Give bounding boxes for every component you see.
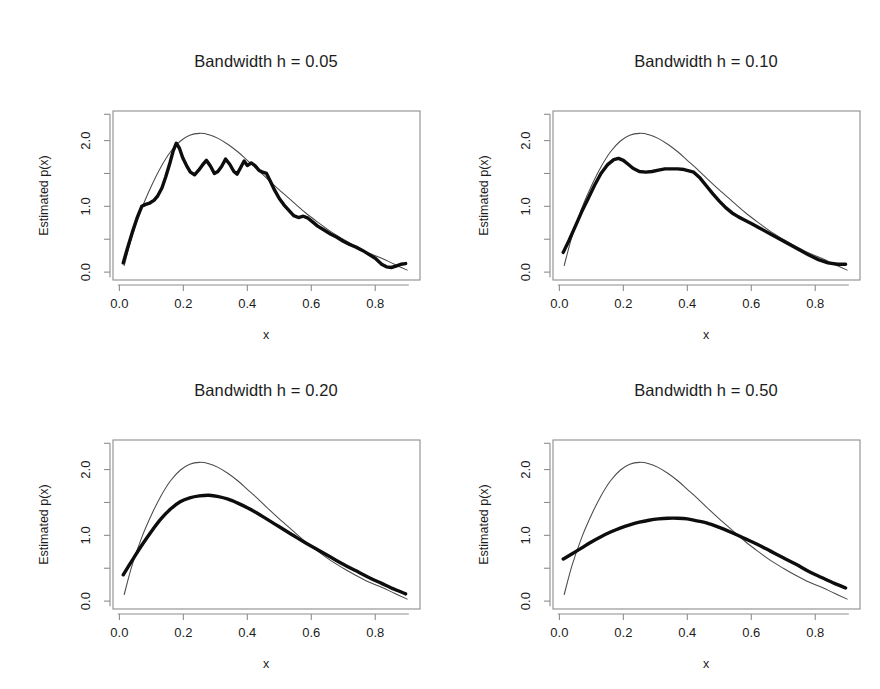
x-tick-label: 0.0	[110, 296, 128, 311]
plot-svg: Bandwidth h = 0.050.01.02.00.00.20.40.60…	[0, 1, 440, 345]
curves-group	[123, 133, 407, 270]
panel-title: Bandwidth h = 0.05	[194, 52, 338, 70]
plot-panel-bandwidth-0-50: Bandwidth h = 0.500.01.02.00.00.20.40.60…	[440, 330, 880, 674]
y-tick-label: 1.0	[518, 197, 533, 215]
plot-panel-bandwidth-0-10: Bandwidth h = 0.100.01.02.00.00.20.40.60…	[440, 1, 880, 345]
y-tick-label: 0.0	[519, 592, 534, 610]
kernel-estimate-curve	[123, 143, 405, 267]
panel-title: Bandwidth h = 0.10	[634, 52, 778, 70]
x-tick-label: 0.0	[110, 625, 128, 640]
x-tick-label: 0.6	[742, 625, 760, 640]
y-axis-title: Estimated p(x)	[37, 484, 51, 565]
x-tick-label: 0.8	[806, 625, 824, 640]
plot-svg: Bandwidth h = 0.500.01.02.00.00.20.40.60…	[440, 330, 880, 674]
x-tick-label: 0.4	[678, 625, 696, 640]
x-tick-label: 0.2	[174, 296, 192, 311]
y-tick-label: 2.0	[518, 132, 533, 150]
x-tick-label: 0.4	[238, 625, 256, 640]
panel-title: Bandwidth h = 0.20	[194, 381, 338, 399]
x-tick-label: 0.2	[614, 296, 632, 311]
y-tick-label: 1.0	[518, 526, 533, 544]
x-tick-label: 0.8	[806, 296, 824, 311]
x-axis-title: x	[263, 657, 270, 671]
x-axis-title: x	[703, 657, 710, 671]
x-tick-label: 0.4	[678, 296, 696, 311]
y-tick-label: 0.0	[79, 592, 94, 610]
y-tick-label: 2.0	[518, 461, 533, 479]
panel-title: Bandwidth h = 0.50	[634, 381, 778, 399]
y-tick-label: 2.0	[78, 461, 93, 479]
y-tick-label: 1.0	[78, 197, 93, 215]
plot-svg: Bandwidth h = 0.100.01.02.00.00.20.40.60…	[440, 1, 880, 345]
y-axis-title: Estimated p(x)	[477, 484, 491, 565]
curves-group	[123, 462, 407, 599]
y-tick-label: 0.0	[519, 263, 534, 281]
y-tick-label: 1.0	[78, 526, 93, 544]
x-tick-label: 0.6	[302, 296, 320, 311]
x-tick-label: 0.0	[550, 296, 568, 311]
curves-group	[563, 462, 847, 599]
x-tick-label: 0.0	[550, 625, 568, 640]
true-density-curve	[124, 133, 407, 270]
plot-svg: Bandwidth h = 0.200.01.02.00.00.20.40.60…	[0, 330, 440, 674]
plot-panel-bandwidth-0-05: Bandwidth h = 0.050.01.02.00.00.20.40.60…	[0, 1, 440, 345]
x-tick-label: 0.8	[366, 625, 384, 640]
x-tick-label: 0.6	[742, 296, 760, 311]
true-density-curve	[564, 133, 847, 270]
true-density-curve	[564, 462, 847, 599]
y-tick-label: 0.0	[79, 263, 94, 281]
x-tick-label: 0.8	[366, 296, 384, 311]
x-tick-label: 0.2	[614, 625, 632, 640]
x-tick-label: 0.6	[302, 625, 320, 640]
plot-panel-bandwidth-0-20: Bandwidth h = 0.200.01.02.00.00.20.40.60…	[0, 330, 440, 674]
kernel-estimate-curve	[563, 158, 845, 264]
y-tick-label: 2.0	[78, 132, 93, 150]
true-density-curve	[124, 462, 407, 599]
x-tick-label: 0.4	[238, 296, 256, 311]
figure-canvas: Bandwidth h = 0.050.01.02.00.00.20.40.60…	[0, 0, 880, 689]
y-axis-title: Estimated p(x)	[37, 155, 51, 236]
y-axis-title: Estimated p(x)	[477, 155, 491, 236]
kernel-estimate-curve	[563, 518, 845, 588]
x-tick-label: 0.2	[174, 625, 192, 640]
curves-group	[563, 133, 847, 270]
